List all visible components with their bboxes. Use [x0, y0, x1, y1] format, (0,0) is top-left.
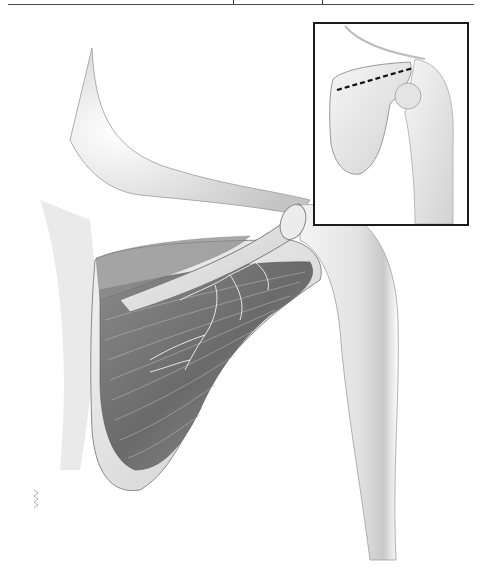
inset-scapula-humerus-illustration: [315, 24, 467, 224]
trapezius-contour: [70, 48, 310, 215]
inset-scapula: [330, 62, 412, 174]
inset-humeral-head: [395, 83, 421, 109]
artist-signature: [34, 490, 38, 508]
inset-view-box: [313, 22, 469, 226]
